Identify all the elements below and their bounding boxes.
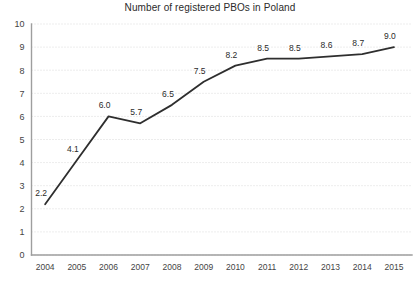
x-tick-label: 2015 <box>384 262 403 272</box>
line-chart-plot: 012345678910 200420052006200720082009201… <box>0 0 420 287</box>
y-tick-label: 5 <box>19 135 24 145</box>
y-tick-label: 10 <box>14 19 24 29</box>
y-tick-label: 9 <box>19 42 24 52</box>
x-tick-label: 2008 <box>163 262 182 272</box>
y-tick-label: 3 <box>19 181 24 191</box>
data-point-label: 8.5 <box>257 43 269 53</box>
y-axis-ticks: 012345678910 <box>14 19 24 260</box>
x-tick-label: 2011 <box>258 262 277 272</box>
x-tick-label: 2014 <box>353 262 372 272</box>
data-point-label: 6.0 <box>99 100 111 110</box>
chart-container: Number of registered PBOs in Poland 0123… <box>0 0 420 287</box>
x-tick-label: 2007 <box>131 262 150 272</box>
y-tick-label: 6 <box>19 112 24 122</box>
x-tick-label: 2010 <box>226 262 245 272</box>
data-point-label: 7.5 <box>194 66 206 76</box>
data-point-label: 8.6 <box>321 40 333 50</box>
data-point-label: 4.1 <box>67 144 79 154</box>
data-point-label: 8.7 <box>352 38 364 48</box>
data-point-label: 9.0 <box>384 31 396 41</box>
gridlines <box>32 24 413 255</box>
data-series-line <box>45 47 394 204</box>
y-tick-label: 8 <box>19 66 24 76</box>
data-point-label: 2.2 <box>35 188 47 198</box>
data-point-label: 8.2 <box>225 50 237 60</box>
x-axis-ticks: 2004200520062007200820092010201120122013… <box>36 262 404 272</box>
x-tick-label: 2009 <box>194 262 213 272</box>
x-tick-label: 2012 <box>289 262 308 272</box>
y-tick-label: 4 <box>19 158 24 168</box>
data-point-label: 5.7 <box>130 107 142 117</box>
x-tick-label: 2005 <box>67 262 86 272</box>
y-tick-label: 1 <box>19 227 24 237</box>
y-tick-label: 2 <box>19 204 24 214</box>
y-tick-label: 0 <box>19 250 24 260</box>
data-point-label: 8.5 <box>289 43 301 53</box>
data-point-label: 6.5 <box>162 89 174 99</box>
x-tick-label: 2006 <box>99 262 118 272</box>
x-tick-label: 2013 <box>321 262 340 272</box>
x-tick-label: 2004 <box>36 262 55 272</box>
y-tick-label: 7 <box>19 89 24 99</box>
